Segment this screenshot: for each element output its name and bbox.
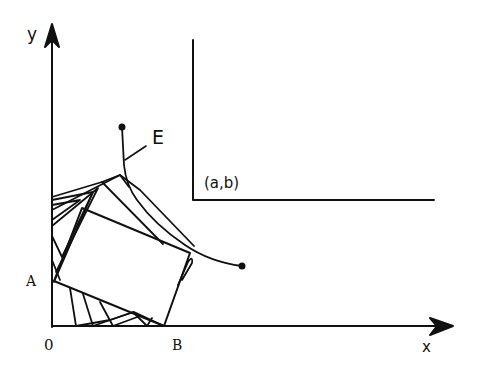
y-axis-label: y [27,26,37,43]
rectangle-corner-loop [178,259,192,285]
point-a-label: A [26,274,36,288]
corner-point-label: (a,b) [204,176,239,191]
x-axis-label: x [422,340,431,355]
main-rectangle [54,208,190,326]
diagram-canvas [0,0,479,380]
envelope-curve-e [122,127,242,266]
curve-e-label: E [152,128,164,147]
curve-e-leader-line [125,146,146,160]
curve-end-dot [240,264,245,269]
origin-label: 0 [44,338,54,353]
point-b-label: B [172,338,182,352]
curve-start-dot [120,125,125,130]
